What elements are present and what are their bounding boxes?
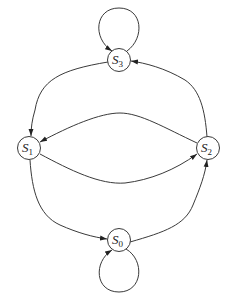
edge-s1-to-s0 [30,160,107,239]
node-s2: S2 [197,137,220,160]
edge-s1-to-s2 [40,154,197,183]
node-s1: S1 [18,137,41,160]
edge-s3-self-loop [99,8,139,51]
edge-s0-to-s2 [130,160,207,242]
node-s0: S0 [108,229,131,252]
node-s3: S3 [108,49,131,72]
edge-s3-to-s1 [31,62,108,136]
edge-s2-to-s1 [40,113,197,143]
edge-s0-self-loop [99,249,139,292]
state-diagram: S3 S1 S2 S0 [0,0,237,300]
edge-s2-to-s3 [131,61,207,137]
